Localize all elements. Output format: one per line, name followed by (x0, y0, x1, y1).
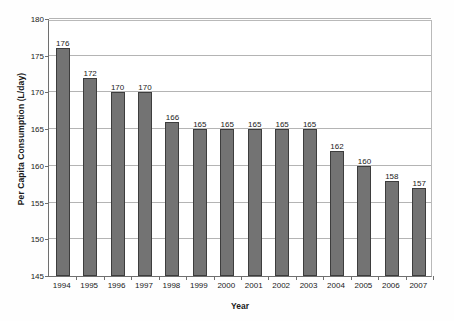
bar-value-label: 157 (413, 179, 426, 188)
bar: 165 (303, 129, 317, 276)
bar: 172 (83, 78, 97, 276)
bar: 165 (220, 129, 234, 276)
bar-value-label: 165 (193, 120, 206, 129)
bar: 166 (165, 122, 179, 276)
x-tick-mark (214, 276, 215, 280)
y-tick-label: 175 (31, 51, 44, 60)
gridline (49, 238, 431, 239)
x-tick-label: 1996 (108, 281, 126, 290)
y-tick-label: 160 (31, 161, 44, 170)
bar: 165 (275, 129, 289, 276)
bar: 157 (412, 188, 426, 276)
y-tick-mark (45, 129, 49, 130)
y-tick-label: 170 (31, 88, 44, 97)
x-axis-title: Year (48, 301, 432, 311)
plot-area: 145150155160165170175180 176172170170166… (48, 20, 432, 277)
gridline (49, 128, 431, 129)
bar-value-label: 172 (83, 69, 96, 78)
x-tick-mark (296, 276, 297, 280)
x-tick-label: 2003 (300, 281, 318, 290)
x-tick-label: 1994 (53, 281, 71, 290)
x-tick-label: 2007 (409, 281, 427, 290)
bar-value-label: 170 (111, 83, 124, 92)
x-tick-mark (104, 276, 105, 280)
y-tick-mark (45, 203, 49, 204)
bar-value-label: 170 (138, 83, 151, 92)
x-tick-mark (378, 276, 379, 280)
y-tick-label: 180 (31, 15, 44, 24)
x-tick-label: 2006 (382, 281, 400, 290)
gridline (49, 202, 431, 203)
y-tick-mark (45, 166, 49, 167)
bar: 165 (248, 129, 262, 276)
x-tick-label: 2000 (217, 281, 235, 290)
x-tick-label: 2005 (355, 281, 373, 290)
x-tick-label: 1999 (190, 281, 208, 290)
gridline (49, 18, 431, 19)
x-tick-label: 1998 (163, 281, 181, 290)
bar-value-label: 166 (166, 113, 179, 122)
y-tick-mark (45, 239, 49, 240)
y-tick-label: 155 (31, 198, 44, 207)
x-tick-mark (323, 276, 324, 280)
bar: 170 (138, 92, 152, 276)
x-tick-mark (268, 276, 269, 280)
x-tick-mark (241, 276, 242, 280)
bar: 165 (193, 129, 207, 276)
y-tick-mark (45, 92, 49, 93)
gridline (49, 91, 431, 92)
gridline (49, 55, 431, 56)
y-tick-label: 150 (31, 235, 44, 244)
bar-value-label: 165 (248, 120, 261, 129)
bar-value-label: 176 (56, 39, 69, 48)
y-axis-title: Per Capita Consumption (L/day) (14, 0, 28, 278)
y-tick-mark (45, 276, 49, 277)
x-tick-label: 2002 (272, 281, 290, 290)
y-tick-label: 145 (31, 272, 44, 281)
bar: 170 (111, 92, 125, 276)
bar: 162 (330, 151, 344, 276)
y-tick-label: 165 (31, 125, 44, 134)
gridline (49, 165, 431, 166)
x-tick-mark (76, 276, 77, 280)
x-tick-mark (406, 276, 407, 280)
x-tick-label: 2004 (327, 281, 345, 290)
x-tick-label: 2001 (245, 281, 263, 290)
x-tick-label: 1997 (135, 281, 153, 290)
bar-value-label: 165 (221, 120, 234, 129)
bar: 158 (385, 181, 399, 276)
bar-chart: Per Capita Consumption (L/day) 145150155… (0, 0, 454, 321)
y-tick-mark (45, 19, 49, 20)
bar-value-label: 165 (303, 120, 316, 129)
x-tick-mark (159, 276, 160, 280)
x-tick-mark (351, 276, 352, 280)
x-tick-mark (433, 276, 434, 280)
bar: 176 (56, 48, 70, 276)
bar-value-label: 160 (358, 157, 371, 166)
x-tick-label: 1995 (80, 281, 98, 290)
x-tick-mark (131, 276, 132, 280)
x-tick-mark (186, 276, 187, 280)
bar-value-label: 158 (385, 172, 398, 181)
y-tick-mark (45, 56, 49, 57)
bar-value-label: 162 (330, 142, 343, 151)
bar-value-label: 165 (275, 120, 288, 129)
bar: 160 (357, 166, 371, 276)
